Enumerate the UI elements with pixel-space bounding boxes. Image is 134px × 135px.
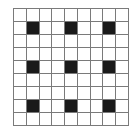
grid-cell <box>40 74 53 87</box>
grid-cell <box>40 35 53 48</box>
grid-cell <box>52 74 65 87</box>
grid-cell <box>116 35 129 48</box>
grid-cell <box>40 100 53 113</box>
grid-cell <box>91 9 104 22</box>
grid-cell <box>27 35 40 48</box>
grid-cell <box>40 113 53 126</box>
grid-cell <box>103 87 116 100</box>
grid-cell <box>91 22 104 35</box>
grid-cell <box>116 61 129 74</box>
grid-cell <box>103 9 116 22</box>
grid-cell <box>14 35 27 48</box>
grid-cell <box>52 22 65 35</box>
grid-cell <box>116 113 129 126</box>
grid-cell <box>116 22 129 35</box>
grid-cell <box>91 113 104 126</box>
grid-cell <box>65 9 78 22</box>
grid-cell <box>78 61 91 74</box>
grid-cell <box>52 35 65 48</box>
grid-cell <box>91 87 104 100</box>
grid-cell <box>78 87 91 100</box>
grid-cell <box>91 35 104 48</box>
grid-cell-filled <box>27 22 40 35</box>
grid-cell <box>78 113 91 126</box>
grid-cell <box>14 100 27 113</box>
grid-cell <box>116 74 129 87</box>
grid-cell <box>65 74 78 87</box>
grid-cell <box>103 113 116 126</box>
grid-cell <box>78 35 91 48</box>
grid-cell <box>78 74 91 87</box>
grid-cell <box>14 22 27 35</box>
grid-cell <box>40 9 53 22</box>
grid-cell-filled <box>103 61 116 74</box>
grid-cell <box>116 100 129 113</box>
grid-cell-filled <box>65 22 78 35</box>
grid-cell-filled <box>27 100 40 113</box>
grid-cell <box>116 9 129 22</box>
grid-cell <box>52 9 65 22</box>
grid-cell <box>52 48 65 61</box>
grid-cell <box>91 61 104 74</box>
grid-cell <box>116 48 129 61</box>
grid-cell <box>52 113 65 126</box>
grid-cell <box>40 48 53 61</box>
grid-cell <box>78 22 91 35</box>
grid-cell <box>65 87 78 100</box>
grid-cell <box>78 48 91 61</box>
grid-cell-filled <box>65 100 78 113</box>
grid-cell <box>14 87 27 100</box>
grid-cell <box>27 48 40 61</box>
grid-cell <box>14 74 27 87</box>
grid-cell <box>27 9 40 22</box>
grid-cell <box>14 9 27 22</box>
grid-cell <box>14 113 27 126</box>
grid-cell <box>103 74 116 87</box>
grid-cell <box>40 61 53 74</box>
grid-cell <box>78 9 91 22</box>
grid-cell <box>52 61 65 74</box>
grid-cell <box>27 74 40 87</box>
grid-cell <box>27 87 40 100</box>
grid-cell <box>103 48 116 61</box>
grid-cell <box>65 113 78 126</box>
grid-cell-filled <box>103 100 116 113</box>
grid-cell <box>52 100 65 113</box>
grid-cell <box>40 22 53 35</box>
grid-cell <box>14 48 27 61</box>
grid-cell <box>91 100 104 113</box>
grid-cell <box>78 100 91 113</box>
grid-diagram <box>13 8 129 126</box>
grid-cell-filled <box>65 61 78 74</box>
grid-cell <box>14 61 27 74</box>
grid-cell <box>65 48 78 61</box>
grid-cell <box>40 87 53 100</box>
grid-cell <box>103 35 116 48</box>
grid-cell <box>27 113 40 126</box>
grid-cell <box>91 48 104 61</box>
grid-cell <box>91 74 104 87</box>
grid-cell-filled <box>103 22 116 35</box>
grid-cell <box>65 35 78 48</box>
grid-cell-filled <box>27 61 40 74</box>
grid-cell <box>116 87 129 100</box>
grid-cell <box>52 87 65 100</box>
